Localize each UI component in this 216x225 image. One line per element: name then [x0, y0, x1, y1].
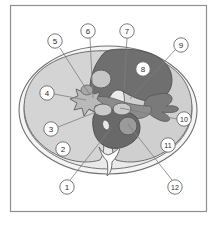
callout-1[interactable]: 1: [60, 180, 74, 194]
callout-8-circle[interactable]: [136, 62, 150, 76]
callout-6-circle[interactable]: [81, 24, 95, 38]
callout-3-circle[interactable]: [44, 122, 58, 136]
callout-5[interactable]: 5: [48, 34, 62, 48]
callout-12-circle[interactable]: [168, 180, 182, 194]
cross-section-diagram: 1 2 3 4 5: [0, 0, 216, 225]
callout-2-circle[interactable]: [56, 142, 70, 156]
callout-1-circle[interactable]: [60, 180, 74, 194]
vessel-oval-mid-left: [94, 104, 112, 116]
callout-5-circle[interactable]: [48, 34, 62, 48]
callout-2[interactable]: 2: [56, 142, 70, 156]
callout-7-circle[interactable]: [120, 24, 134, 38]
figure-container: 1 2 3 4 5: [0, 0, 216, 225]
callout-7[interactable]: 7: [120, 24, 134, 38]
callout-4[interactable]: 4: [40, 86, 54, 100]
vessel-oval-mid-right: [113, 103, 131, 115]
callout-4-circle[interactable]: [40, 86, 54, 100]
callout-8[interactable]: 8: [136, 62, 150, 76]
callout-9-circle[interactable]: [174, 38, 188, 52]
callout-12[interactable]: 12: [168, 180, 182, 194]
callout-10[interactable]: 10: [177, 112, 191, 126]
vessel-round-upper-left: [91, 70, 111, 88]
callout-3[interactable]: 3: [44, 122, 58, 136]
callout-11[interactable]: 11: [161, 138, 175, 152]
callout-10-circle[interactable]: [177, 112, 191, 126]
callout-9[interactable]: 9: [174, 38, 188, 52]
callout-6[interactable]: 6: [81, 24, 95, 38]
callout-11-circle[interactable]: [161, 138, 175, 152]
